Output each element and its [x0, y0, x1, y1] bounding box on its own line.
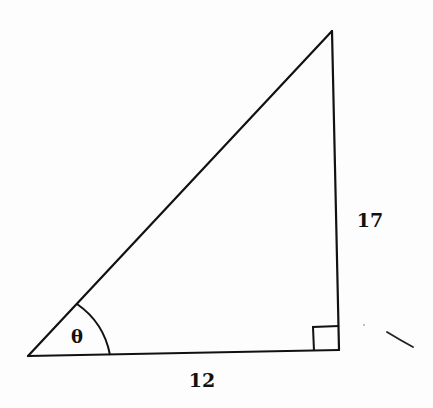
vertical-side-line — [332, 31, 339, 350]
right-angle-marker-icon — [313, 326, 339, 351]
angle-label: θ — [71, 328, 83, 346]
hypotenuse-line — [28, 31, 332, 356]
base-line — [28, 350, 339, 356]
stray-mark — [387, 332, 413, 347]
base-side-label: 12 — [189, 371, 215, 390]
triangle-figure — [0, 0, 433, 408]
right-triangle-diagram: θ 17 12 — [0, 0, 433, 408]
vertical-side-label: 17 — [357, 211, 383, 230]
speck — [363, 324, 365, 326]
